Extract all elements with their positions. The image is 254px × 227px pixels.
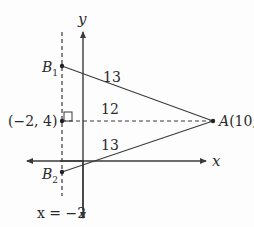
foot-point-label: (−2, 4) [8, 113, 57, 129]
point-B2-label: B2 [41, 166, 58, 185]
point-foot [60, 119, 64, 123]
x-axis-label: x [212, 152, 221, 170]
point-A [211, 119, 215, 123]
point-B1-label: B1 [41, 59, 58, 78]
right-angle-marker [64, 112, 72, 121]
point-A-label: A(10, 4) [217, 113, 254, 129]
segment-A-B1 [62, 66, 213, 121]
point-B2 [60, 170, 64, 174]
length-AB2-label: 13 [101, 137, 119, 153]
diagram-svg: y x B1 B2 (−2, 4) A(10, 4) 13 12 13 x = … [0, 0, 254, 227]
coordinate-diagram: y x B1 B2 (−2, 4) A(10, 4) 13 12 13 x = … [0, 0, 254, 227]
segment-A-B2 [62, 121, 213, 172]
y-axis-label: y [77, 10, 87, 28]
length-AB1-label: 13 [103, 69, 121, 85]
point-B1 [60, 64, 64, 68]
vertical-line-label: x = −2 [37, 205, 86, 221]
length-horizontal-label: 12 [101, 101, 119, 117]
